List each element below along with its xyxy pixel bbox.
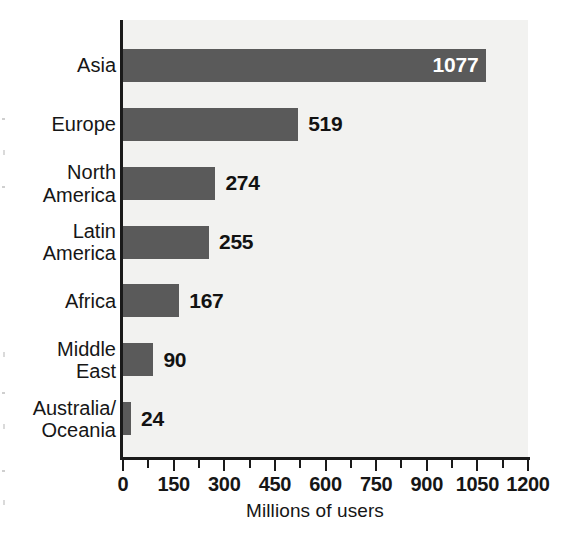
bar bbox=[123, 226, 209, 259]
bar bbox=[123, 402, 131, 435]
bar bbox=[123, 284, 179, 317]
x-tick-major bbox=[375, 460, 377, 471]
scan-artifact bbox=[3, 150, 5, 155]
x-tick-label: 150 bbox=[157, 473, 189, 496]
x-tick-label: 900 bbox=[411, 473, 443, 496]
x-tick-minor bbox=[198, 460, 200, 468]
x-tick-major bbox=[122, 460, 124, 471]
category-label: Latin America bbox=[4, 220, 116, 265]
x-tick-minor bbox=[147, 460, 149, 468]
category-label: Europe bbox=[4, 113, 116, 135]
x-tick-label: 300 bbox=[208, 473, 240, 496]
scan-artifact bbox=[2, 470, 5, 472]
x-tick-major bbox=[274, 460, 276, 471]
category-label: Asia bbox=[4, 54, 116, 76]
category-label: Africa bbox=[4, 290, 116, 312]
bar: 1077 bbox=[123, 49, 486, 82]
x-tick-major bbox=[426, 460, 428, 471]
bar bbox=[123, 167, 215, 200]
category-label: North America bbox=[4, 161, 116, 206]
bar-value-label: 90 bbox=[163, 348, 186, 372]
bar-value-label: 274 bbox=[225, 171, 259, 195]
bar-value-label: 167 bbox=[189, 289, 223, 313]
x-tick-label: 1200 bbox=[506, 473, 549, 496]
x-tick-label: 1050 bbox=[456, 473, 499, 496]
x-tick-minor bbox=[299, 460, 301, 468]
x-tick-minor bbox=[249, 460, 251, 468]
x-tick-label: 450 bbox=[259, 473, 291, 496]
bar-value-label: 24 bbox=[141, 407, 164, 431]
category-label: Middle East bbox=[4, 337, 116, 382]
bar-value-label: 255 bbox=[219, 230, 253, 254]
x-axis-title: Millions of users bbox=[0, 500, 562, 522]
x-tick-minor bbox=[451, 460, 453, 468]
x-axis-title-text: Millions of users bbox=[246, 500, 384, 522]
bar bbox=[123, 108, 298, 141]
x-tick-major bbox=[173, 460, 175, 471]
category-label: Australia/ Oceania bbox=[4, 396, 116, 441]
x-tick-label: 600 bbox=[309, 473, 341, 496]
bar-chart-figure: 015030045060075090010501200 107751927425… bbox=[0, 0, 562, 550]
x-tick-major bbox=[476, 460, 478, 471]
bar-value-label: 519 bbox=[308, 112, 342, 136]
x-tick-label: 0 bbox=[118, 473, 129, 496]
bar-value-label: 1077 bbox=[433, 53, 479, 77]
x-tick-minor bbox=[400, 460, 402, 468]
x-tick-major bbox=[223, 460, 225, 471]
scan-artifact bbox=[2, 392, 5, 394]
x-tick-minor bbox=[350, 460, 352, 468]
x-tick-major bbox=[325, 460, 327, 471]
x-tick-minor bbox=[502, 460, 504, 468]
bar bbox=[123, 343, 153, 376]
x-tick-major bbox=[527, 460, 529, 471]
x-tick-label: 750 bbox=[360, 473, 392, 496]
